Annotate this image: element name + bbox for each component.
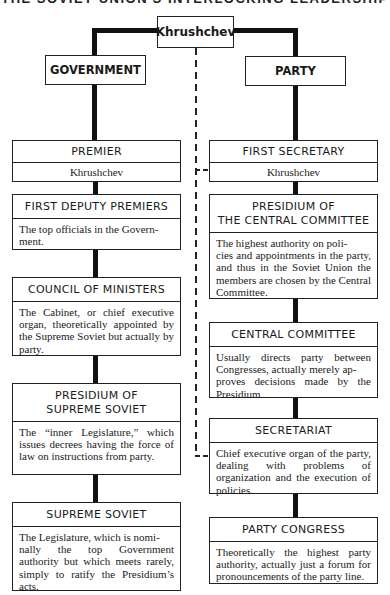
connector-party-to-first-secretary bbox=[293, 85, 298, 141]
premier-heading: PREMIER bbox=[13, 141, 180, 163]
premier-name: Khrushchev bbox=[13, 163, 180, 181]
secretariat-box: SECRETARIAT Chief executive organ of the… bbox=[209, 418, 378, 494]
connector-party-1 bbox=[293, 181, 298, 195]
party-congress-box: PARTY CONGRESS Theoretically the highest… bbox=[209, 517, 378, 584]
council-of-ministers-box: COUNCIL OF MINISTERS The Cabinet, or chi… bbox=[12, 277, 181, 356]
leader-box: Khrushchev bbox=[157, 16, 234, 48]
party-congress-heading: PARTY CONGRESS bbox=[210, 518, 377, 542]
connector-government-to-premier bbox=[92, 84, 97, 141]
connector-party-vertical-top bbox=[293, 28, 298, 57]
presidium-central-committee-description: The highest authority on poli-cies and a… bbox=[210, 233, 377, 303]
premier-box: PREMIER Khrushchev bbox=[12, 140, 181, 182]
first-secretary-heading: FIRST SECRETARY bbox=[210, 141, 377, 163]
presidium-supreme-soviet-box: PRESIDIUM OFSUPREME SOVIET The “inner Le… bbox=[12, 383, 181, 475]
dashed-link-secretariat bbox=[195, 455, 209, 457]
connector-gov-4 bbox=[93, 474, 98, 503]
government-box: GOVERNMENT bbox=[45, 55, 146, 85]
presidium-central-committee-heading: PRESIDIUM OFTHE CENTRAL COMMITTEE bbox=[210, 195, 377, 233]
first-secretary-name: Khrushchev bbox=[210, 163, 377, 181]
central-committee-heading: CENTRAL COMMITTEE bbox=[210, 323, 377, 347]
supreme-soviet-heading: SUPREME SOVIET bbox=[13, 503, 180, 527]
presidium-supreme-soviet-heading: PRESIDIUM OFSUPREME SOVIET bbox=[13, 384, 180, 422]
presidium-central-committee-box: PRESIDIUM OFTHE CENTRAL COMMITTEE The hi… bbox=[209, 194, 378, 299]
secretariat-description: Chief executive organ of the party, deal… bbox=[210, 443, 377, 501]
first-deputy-premiers-description: The top officials in the Govern-ment. bbox=[13, 219, 180, 252]
first-deputy-premiers-heading: FIRST DEPUTY PREMIERS bbox=[13, 195, 180, 219]
connector-gov-vertical-top bbox=[92, 28, 97, 56]
presidium-supreme-soviet-description: The “inner Legislature,” which issues de… bbox=[13, 422, 180, 468]
council-of-ministers-description: The Cabinet, or chief executive organ, t… bbox=[13, 302, 180, 360]
party-box: PARTY bbox=[245, 56, 346, 86]
connector-gov-2 bbox=[93, 249, 98, 278]
first-deputy-premiers-box: FIRST DEPUTY PREMIERS The top officials … bbox=[12, 194, 181, 250]
leader-name: Khrushchev bbox=[156, 25, 236, 39]
party-congress-description: Theoretically the highest party authorit… bbox=[210, 542, 377, 588]
connector-gov-1 bbox=[93, 181, 98, 195]
supreme-soviet-box: SUPREME SOVIET The Legislature, which is… bbox=[12, 502, 181, 591]
central-committee-box: CENTRAL COMMITTEE Usually directs party … bbox=[209, 322, 378, 398]
dashed-interlock-line bbox=[195, 48, 197, 457]
dashed-link-first-secretary bbox=[195, 169, 209, 171]
connector-leader-to-party bbox=[233, 28, 298, 33]
supreme-soviet-description: The Legislature, which is nomi-nally the… bbox=[13, 527, 180, 595]
connector-leader-to-government bbox=[92, 28, 158, 33]
central-committee-description: Usually directs party between Congresses… bbox=[210, 347, 377, 405]
government-label: GOVERNMENT bbox=[50, 63, 141, 77]
party-label: PARTY bbox=[275, 64, 316, 78]
council-of-ministers-heading: COUNCIL OF MINISTERS bbox=[13, 278, 180, 302]
diagram-title: THE SOVIET UNION'S INTERLOCKING LEADERSH… bbox=[0, 0, 390, 6]
first-secretary-box: FIRST SECRETARY Khrushchev bbox=[209, 140, 378, 182]
secretariat-heading: SECRETARIAT bbox=[210, 419, 377, 443]
